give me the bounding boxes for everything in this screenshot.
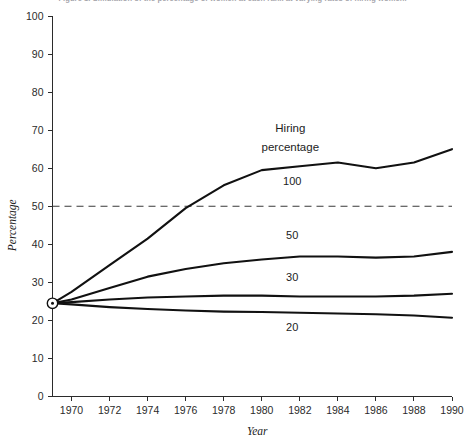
x-tick-label: 1976 xyxy=(174,404,198,416)
series-label-20: 20 xyxy=(286,321,298,333)
x-axis-ticks: 1970197219741976197819801982198419861988… xyxy=(60,397,464,416)
series-label-30: 30 xyxy=(286,271,298,283)
y-tick-label: 80 xyxy=(32,86,44,98)
x-tick-label: 1988 xyxy=(402,404,426,416)
y-axis-title: Percentage xyxy=(6,199,19,252)
x-tick-label: 1972 xyxy=(98,404,122,416)
y-tick-label: 40 xyxy=(32,238,44,250)
origin-marker xyxy=(47,298,57,308)
series-line-30 xyxy=(53,294,453,304)
x-tick-label: 1990 xyxy=(440,404,464,416)
series-labels: 100503020 xyxy=(283,175,301,332)
y-axis-ticks: 0102030405060708090100 xyxy=(26,10,53,403)
legend-title-line1: Hiring xyxy=(275,122,305,134)
x-tick-label: 1970 xyxy=(60,404,84,416)
y-tick-label: 100 xyxy=(26,10,44,22)
series-label-50: 50 xyxy=(286,229,298,241)
y-tick-label: 10 xyxy=(32,352,44,364)
y-tick-label: 90 xyxy=(32,48,44,60)
chart-container: Figure 1. Simulation of the percentage o… xyxy=(0,0,465,442)
y-tick-label: 30 xyxy=(32,276,44,288)
line-chart-plot: 0102030405060708090100 19701972197419761… xyxy=(0,0,465,442)
x-tick-label: 1984 xyxy=(326,404,350,416)
x-tick-label: 1980 xyxy=(250,404,274,416)
y-tick-label: 70 xyxy=(32,124,44,136)
y-tick-label: 50 xyxy=(32,200,44,212)
series-label-100: 100 xyxy=(283,175,301,187)
legend-title-line2: percentage xyxy=(262,141,320,153)
y-tick-label: 60 xyxy=(32,162,44,174)
series-lines xyxy=(53,149,453,318)
series-line-100 xyxy=(53,149,453,303)
x-axis-title: Year xyxy=(247,425,268,437)
x-tick-label: 1978 xyxy=(212,404,236,416)
origin-marker-dot xyxy=(51,302,54,305)
x-tick-label: 1982 xyxy=(288,404,312,416)
x-tick-label: 1986 xyxy=(364,404,388,416)
series-line-20 xyxy=(53,303,453,317)
y-tick-label: 20 xyxy=(32,314,44,326)
x-tick-label: 1974 xyxy=(136,404,160,416)
y-tick-label: 0 xyxy=(38,390,44,402)
